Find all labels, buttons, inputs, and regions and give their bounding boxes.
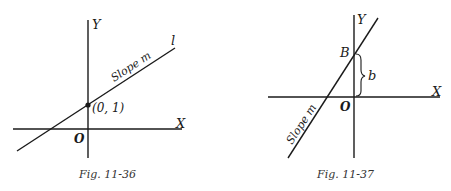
origin-label: O xyxy=(74,132,85,146)
brace-icon xyxy=(356,54,365,96)
intercept-point-label: B xyxy=(339,45,350,60)
line-l xyxy=(17,48,175,151)
slope-line xyxy=(288,18,378,158)
figures-canvas: Y X O l (0, 1) Slope m Fig. 11-36 Y X O … xyxy=(0,0,451,191)
origin-label: O xyxy=(340,100,351,114)
figure-11-37: Y X O B b Slope m Fig. 11-37 xyxy=(268,12,442,181)
figure-caption: Fig. 11-37 xyxy=(316,168,374,181)
y-axis-label: Y xyxy=(92,17,102,32)
line-name-label: l xyxy=(171,33,175,48)
x-axis-label: X xyxy=(431,84,442,99)
x-axis-label: X xyxy=(175,116,186,131)
y-axis-label: Y xyxy=(357,12,367,27)
figure-caption: Fig. 11-36 xyxy=(78,168,136,181)
figure-11-36: Y X O l (0, 1) Slope m Fig. 11-36 xyxy=(13,17,186,181)
intercept-length-label: b xyxy=(368,68,376,83)
point-0-1-marker xyxy=(85,102,90,107)
point-label: (0, 1) xyxy=(92,101,125,115)
slope-label: Slope m xyxy=(284,102,319,147)
